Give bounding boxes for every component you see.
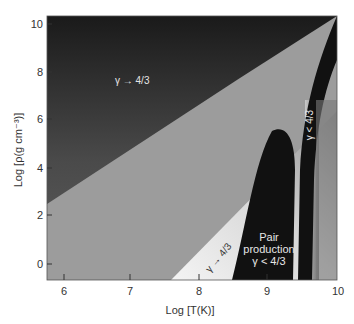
x-tick-label: 8	[196, 285, 202, 297]
pair-label-line1: Pair	[259, 231, 279, 243]
x-axis-label: Log [T(K)]	[166, 304, 215, 316]
x-tick-label: 6	[61, 285, 67, 297]
gamma-phase-diagram: 10 8 6 4 2 0 6 7 8 9 10 Log [T(K)] Log […	[0, 0, 354, 324]
plot-area	[47, 16, 337, 280]
y-tick-label: 4	[37, 162, 43, 174]
y-tick-label: 10	[31, 18, 43, 30]
upper-region-label: γ → 4/3	[115, 75, 150, 86]
y-tick-label: 6	[37, 113, 43, 125]
x-tick-label: 7	[127, 285, 133, 297]
pair-label-line3: γ < 4/3	[252, 255, 285, 267]
pair-label-line2: production	[243, 243, 294, 255]
y-tick-label: 8	[37, 66, 43, 78]
y-axis-label: Log [ρ(g cm⁻³)]	[12, 113, 24, 188]
y-tick-label: 0	[37, 258, 43, 270]
x-tick-label: 10	[332, 285, 344, 297]
right-gradient-strip	[316, 100, 337, 280]
strip-label: γ < 4/3	[304, 109, 315, 140]
y-tick-label: 2	[37, 209, 43, 221]
x-tick-label: 9	[264, 285, 270, 297]
